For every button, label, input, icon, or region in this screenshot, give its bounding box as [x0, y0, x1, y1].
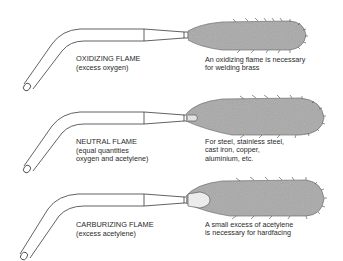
- neutral-flame-description: For steel, stainless steel, cast iron, c…: [205, 138, 284, 163]
- neutral-flame: [186, 95, 326, 138]
- carburizing-flame-subtitle: (excess acetylene): [76, 230, 136, 238]
- oxidizing-flame-subtitle: (excess oxygen): [76, 64, 128, 72]
- carburizing-flame: [186, 177, 327, 219]
- carburizing-flame-description: A small excess of acetylene is necessary…: [205, 221, 293, 238]
- neutral-flame-subtitle: (equal quantities oxygen and acetylene): [76, 147, 148, 164]
- oxidizing-flame: [188, 18, 308, 53]
- oxidizing-flame-description: An oxidizing flame is necessary for weld…: [205, 56, 305, 73]
